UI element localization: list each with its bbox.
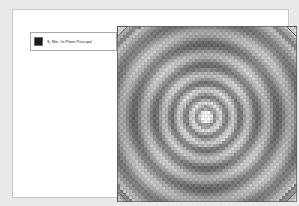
plot-sheet: S, Min. In-Plane Principal: [12, 9, 289, 198]
legend-color-swatch-icon: [34, 37, 43, 46]
legend-entry: S, Min. In-Plane Principal: [34, 37, 116, 46]
mesh-svg: [117, 26, 297, 202]
mesh-contour-plot[interactable]: [117, 26, 297, 202]
legend[interactable]: S, Min. In-Plane Principal: [30, 32, 117, 51]
legend-entry-label: S, Min. In-Plane Principal: [47, 39, 92, 44]
contour-viewport: S, Min. In-Plane Principal: [0, 0, 299, 206]
